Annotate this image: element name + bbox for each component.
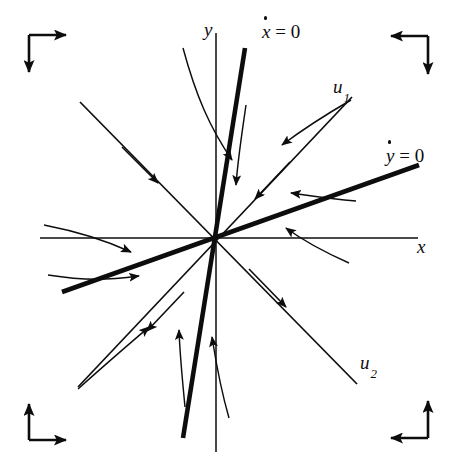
trajectory-right-lower-curve bbox=[286, 228, 349, 263]
eigendirection-u1-subscript: 1 bbox=[344, 90, 351, 105]
trajectory-lower-mid-curve bbox=[179, 330, 185, 407]
x-dot-nullcline-label: x = 0 bbox=[262, 22, 300, 41]
eigendirection-u1-symbol: u bbox=[333, 76, 343, 97]
x-axis-label: x bbox=[417, 237, 425, 256]
arrow-u2-outbound-lower bbox=[249, 269, 286, 307]
x-dot-nullcline-variable: x bbox=[262, 21, 270, 42]
eigendirection-lines bbox=[78, 97, 357, 387]
trajectory-upper-left-curve bbox=[183, 48, 232, 160]
x-dot-accent-wrapper: x bbox=[262, 22, 270, 41]
eigendirection-u2-symbol: u bbox=[360, 352, 370, 373]
arrow-u2-inbound-upper bbox=[122, 147, 158, 183]
y-dot-nullcline-equals: = 0 bbox=[394, 145, 424, 166]
arrow-u1-outbound-lower bbox=[147, 292, 184, 331]
y-dot-nullcline-variable: y bbox=[386, 145, 394, 166]
phase-portrait-svg bbox=[0, 0, 460, 472]
trajectory-left-lower-curve bbox=[48, 275, 139, 279]
corner-marker-top-right bbox=[391, 36, 428, 74]
trajectory-upper-right-curve bbox=[282, 100, 351, 145]
y-axis-label: y bbox=[204, 20, 212, 39]
y-dot-accent-mark bbox=[388, 140, 391, 143]
x-dot-accent-mark bbox=[264, 16, 267, 19]
y-dot-accent-wrapper: y bbox=[386, 146, 394, 165]
corner-marker-top-left bbox=[29, 35, 66, 72]
nullcline-lines bbox=[62, 48, 419, 438]
x-dot-nullcline-line bbox=[183, 48, 245, 438]
trajectory-lower-right-curve bbox=[212, 337, 229, 418]
y-dot-nullcline-label: y = 0 bbox=[386, 146, 424, 165]
eigendirection-u1-label: u1 bbox=[333, 77, 349, 100]
trajectory-lower-left-curve bbox=[78, 327, 149, 389]
trajectory-upper-mid-curve bbox=[236, 105, 246, 185]
arrow-u1-inbound-upper bbox=[255, 162, 290, 199]
corner-marker-bottom-right bbox=[391, 401, 428, 438]
x-dot-nullcline-equals: = 0 bbox=[270, 21, 300, 42]
trajectory-curves bbox=[44, 48, 356, 418]
eigendirection-u2-subscript: 2 bbox=[371, 366, 378, 381]
axes-group bbox=[40, 33, 418, 452]
phase-portrait-figure: y x x = 0 y = 0 u1 u2 bbox=[0, 0, 460, 472]
y-dot-nullcline-line bbox=[62, 165, 419, 292]
corner-marker-bottom-left bbox=[29, 404, 66, 440]
eigendirection-u2-label: u2 bbox=[360, 353, 376, 376]
